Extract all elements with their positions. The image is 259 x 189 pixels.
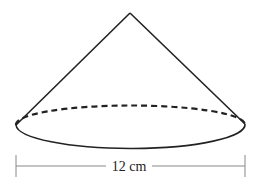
cone-figure	[16, 13, 245, 149]
diameter-label: 12 cm	[112, 159, 147, 174]
base-back-edge-dashed	[16, 105, 245, 125]
cone-diagram: 12 cm	[0, 0, 259, 189]
cone-right-slant	[130, 13, 245, 124]
base-front-edge	[16, 124, 245, 149]
diameter-dimension: 12 cm	[16, 155, 245, 177]
